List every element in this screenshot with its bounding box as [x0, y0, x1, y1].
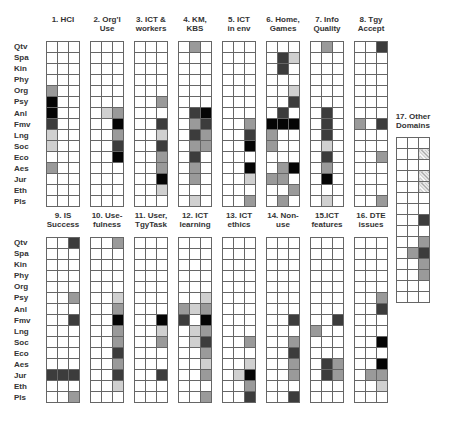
heatmap-cell: [322, 97, 333, 108]
heatmap-cell: [408, 281, 419, 292]
heatmap-cell: [58, 163, 69, 174]
heatmap-cell: [278, 64, 289, 75]
heatmap-cell: [278, 348, 289, 359]
heatmap-cell: [366, 75, 377, 86]
panel-grid: [354, 237, 388, 403]
heatmap-cell: [135, 163, 146, 174]
heatmap-cell: [47, 196, 58, 207]
heatmap-cell: [267, 64, 278, 75]
heatmap-cell: [267, 42, 278, 53]
heatmap-cell: [58, 348, 69, 359]
heatmap-cell: [333, 337, 344, 348]
panel-title-line: 8. Tgy: [341, 15, 401, 24]
panel-grid: [90, 237, 124, 403]
heatmap-cell: [157, 196, 168, 207]
heatmap-cell: [234, 119, 245, 130]
heatmap-cell: [47, 163, 58, 174]
heatmap-cell: [47, 260, 58, 271]
heatmap-cell: [102, 260, 113, 271]
heatmap-cell: [355, 249, 366, 260]
heatmap-cell: [157, 75, 168, 86]
heatmap-cell: [58, 326, 69, 337]
heatmap-cell: [157, 315, 168, 326]
heatmap-cell: [102, 42, 113, 53]
heatmap-cell: [311, 249, 322, 260]
heatmap-cell: [377, 174, 388, 185]
heatmap-cell: [289, 370, 300, 381]
heatmap-cell: [408, 248, 419, 259]
heatmap-cell: [289, 108, 300, 119]
heatmap-cell: [113, 370, 124, 381]
heatmap-cell: [322, 185, 333, 196]
heatmap-cell: [311, 185, 322, 196]
heatmap-cell: [69, 64, 80, 75]
row-label: Kin: [14, 259, 30, 270]
heatmap-cell: [113, 304, 124, 315]
heatmap-cell: [333, 97, 344, 108]
heatmap-cell: [408, 226, 419, 237]
heatmap-cell: [267, 370, 278, 381]
heatmap-cell: [58, 174, 69, 185]
heatmap-cell: [289, 196, 300, 207]
row-labels: QtvSpaKinPhyOrgPsyAnlFmvLngSocEcoAesJurE…: [14, 41, 30, 207]
heatmap-cell: [223, 75, 234, 86]
heatmap-cell: [47, 42, 58, 53]
heatmap-cell: [146, 359, 157, 370]
heatmap-cell: [311, 53, 322, 64]
heatmap-cell: [397, 281, 408, 292]
heatmap-cell: [355, 304, 366, 315]
heatmap-cell: [113, 249, 124, 260]
heatmap-cell: [366, 315, 377, 326]
heatmap-cell: [157, 260, 168, 271]
heatmap-cell: [58, 381, 69, 392]
heatmap-cell: [58, 86, 69, 97]
heatmap-cell: [366, 304, 377, 315]
heatmap-cell: [245, 174, 256, 185]
heatmap-cell: [322, 370, 333, 381]
heatmap-cell: [366, 185, 377, 196]
heatmap-cell: [234, 348, 245, 359]
heatmap-cell: [179, 392, 190, 403]
heatmap-cell: [58, 196, 69, 207]
heatmap-cell: [419, 259, 430, 270]
heatmap-cell: [397, 215, 408, 226]
heatmap-cell: [201, 326, 212, 337]
heatmap-cell: [58, 249, 69, 260]
heatmap-cell: [267, 196, 278, 207]
heatmap-cell: [397, 270, 408, 281]
heatmap-cell: [366, 108, 377, 119]
heatmap-cell: [102, 359, 113, 370]
row-label: Aes: [14, 163, 30, 174]
heatmap-cell: [355, 293, 366, 304]
heatmap-cell: [267, 238, 278, 249]
heatmap-cell: [201, 64, 212, 75]
heatmap-cell: [333, 392, 344, 403]
heatmap-cell: [333, 381, 344, 392]
panel-title: 17. OtherDomains: [383, 112, 443, 130]
heatmap-cell: [408, 215, 419, 226]
heatmap-cell: [333, 141, 344, 152]
heatmap-cell: [377, 359, 388, 370]
heatmap-cell: [102, 348, 113, 359]
heatmap-cell: [245, 119, 256, 130]
panel-grid: [222, 41, 256, 207]
heatmap-cell: [311, 174, 322, 185]
heatmap-cell: [223, 130, 234, 141]
heatmap-cell: [157, 392, 168, 403]
heatmap-cell: [377, 348, 388, 359]
heatmap-cell: [113, 359, 124, 370]
heatmap-cell: [289, 53, 300, 64]
heatmap-cell: [201, 260, 212, 271]
heatmap-cell: [289, 282, 300, 293]
heatmap-cell: [91, 271, 102, 282]
heatmap-cell: [322, 119, 333, 130]
heatmap-cell: [47, 315, 58, 326]
heatmap-cell: [377, 86, 388, 97]
heatmap-cell: [278, 326, 289, 337]
heatmap-cell: [278, 174, 289, 185]
heatmap-cell: [234, 174, 245, 185]
heatmap-cell: [69, 152, 80, 163]
heatmap-cell: [223, 53, 234, 64]
heatmap-cell: [47, 238, 58, 249]
heatmap-cell: [289, 42, 300, 53]
